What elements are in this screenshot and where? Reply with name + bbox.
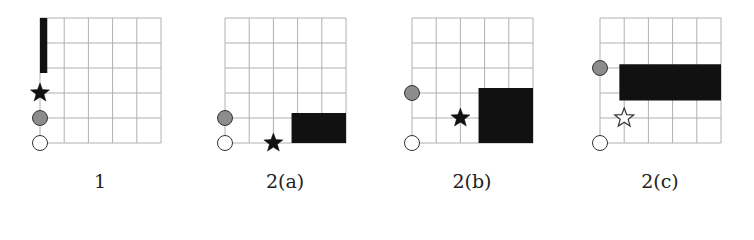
panel-caption-1: 1 [40,170,160,192]
gray-circle-marker [593,61,608,76]
white-circle-marker [593,136,608,151]
panel-caption-2a: 2(a) [225,170,345,192]
obstacle-block [619,64,721,100]
panel-caption-2c: 2(c) [600,170,720,192]
panel-caption-2b: 2(b) [412,170,532,192]
